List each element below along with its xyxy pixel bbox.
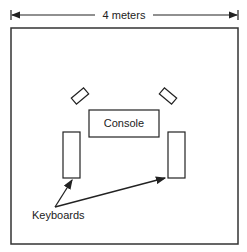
left-keyboard bbox=[63, 132, 80, 178]
console: Console bbox=[89, 110, 159, 137]
keyboard-arrow-right bbox=[55, 178, 165, 207]
studio-layout-diagram: 4 meters Console Keyboards bbox=[0, 0, 247, 252]
left-speaker bbox=[71, 88, 88, 104]
right-speaker bbox=[159, 88, 176, 104]
right-keyboard bbox=[168, 132, 185, 178]
dimension-label: 4 meters bbox=[103, 9, 146, 21]
console-label: Console bbox=[104, 117, 144, 129]
dimension-line: 4 meters bbox=[11, 9, 238, 21]
keyboards-label: Keyboards bbox=[32, 209, 85, 221]
